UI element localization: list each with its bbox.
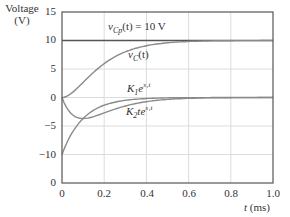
annotation-vcp: vCp(t) = 10 V [108,20,166,35]
y-tick-15: 15 [32,5,56,17]
annotation-vc: vC(t) [128,48,149,63]
y-tick-neg5: −5 [32,119,56,131]
x-axis-label: t (ms) [244,201,270,213]
y-tick-5: 5 [32,62,56,74]
x-tick-1.0: 1.0 [258,187,288,199]
x-tick-0.8: 0.8 [216,187,246,199]
y-tick-10: 10 [32,33,56,45]
annotation-k1: K1es₁t [127,81,150,97]
x-tick-0.6: 0.6 [174,187,204,199]
annotation-k2: K2tes₁t [126,104,152,120]
series-k2-curve [62,98,273,119]
x-tick-0: 0 [47,187,77,199]
y-tick-neg10: −10 [32,148,56,160]
x-tick-0.4: 0.4 [132,187,162,199]
x-tick-0.2: 0.2 [89,187,119,199]
voltage-response-chart: Voltage (V) 15 10 5 0 −5 −10 0 0 0.2 0.4… [0,0,290,217]
y-tick-0: 0 [32,91,56,103]
